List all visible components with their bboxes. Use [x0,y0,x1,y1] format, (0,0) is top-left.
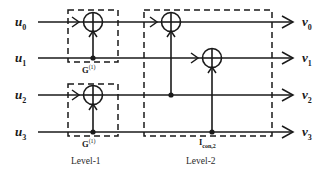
output-label-v1: v1 [302,51,312,68]
xor-gate-l2-v1 [191,49,222,74]
output-label-v3: v3 [302,125,312,142]
dot-u1-l1 [90,55,95,60]
level-label-1: Level-1 [71,157,101,167]
xor-gate-l2-v0 [150,13,181,38]
output-label-v0: v0 [302,15,312,32]
level-label-2: Level-2 [186,157,216,167]
gate-label-icon2: Icon,2 [199,138,216,149]
input-label-u1: u1 [15,51,26,68]
dot-u3-l1 [90,129,95,134]
dot-u2-l2 [168,92,173,97]
output-arrowhead-group [282,16,293,138]
xor-gate-l1-bottom [72,86,103,111]
gate-label-g1-bottom: G(1) [82,138,96,148]
input-label-u3: u3 [15,125,26,142]
figure-canvas: u0 u1 u2 u3 v0 v1 v2 v3 G(1) G(1) Icon,2… [0,0,325,175]
vertical-wire-group [93,32,212,132]
xor-gate-l1-top [72,13,103,38]
output-label-v2: v2 [302,88,312,105]
circuit-diagram [0,0,325,175]
horizontal-wire-group [38,22,292,132]
input-label-u2: u2 [15,88,26,105]
input-label-u0: u0 [15,15,26,32]
dot-u3-l2 [209,129,214,134]
gate-label-g1-top: G(1) [82,64,96,74]
